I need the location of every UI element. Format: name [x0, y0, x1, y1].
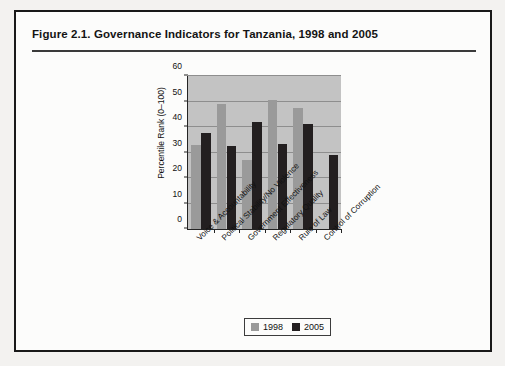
gridline — [188, 101, 341, 102]
plot-area: Percentile Rank (0–100) 0102030405060 Vo… — [187, 76, 341, 230]
gridline — [188, 177, 341, 178]
x-tick-mark — [290, 229, 291, 233]
gridline — [188, 152, 341, 153]
legend-item-1998: 1998 — [251, 322, 283, 332]
y-tick-mark — [184, 100, 188, 101]
chart-area: Percentile Rank (0–100) 0102030405060 Vo… — [16, 56, 490, 350]
y-tick-mark — [184, 228, 188, 229]
bar-1998-voice-accountability — [191, 145, 201, 229]
y-tick-label: 30 — [173, 138, 182, 148]
bar-2005-voice-accountability — [201, 133, 211, 229]
y-tick-label: 60 — [173, 61, 182, 71]
figure-title: Figure 2.1. Governance Indicators for Ta… — [32, 28, 378, 40]
bar-2005-control-of-corruption — [329, 155, 339, 229]
y-tick-mark — [184, 126, 188, 127]
y-axis-title: Percentile Rank (0–100) — [156, 38, 166, 228]
legend-item-2005: 2005 — [292, 322, 324, 332]
figure-frame: Figure 2.1. Governance Indicators for Ta… — [14, 10, 492, 352]
gridline — [188, 75, 341, 76]
x-tick-mark — [239, 229, 240, 233]
legend-swatch-2005 — [292, 323, 300, 331]
y-tick-mark — [184, 75, 188, 76]
legend-label: 2005 — [304, 322, 324, 332]
y-tick-mark — [184, 151, 188, 152]
y-tick-label: 0 — [177, 214, 182, 224]
page-background: Figure 2.1. Governance Indicators for Ta… — [0, 0, 505, 366]
bar-2005-political-stability-no-violence — [227, 146, 237, 229]
y-tick-label: 20 — [173, 163, 182, 173]
legend-label: 1998 — [263, 322, 283, 332]
y-tick-mark — [184, 177, 188, 178]
y-tick-label: 50 — [173, 87, 182, 97]
y-tick-mark — [184, 202, 188, 203]
title-divider — [32, 50, 476, 52]
gridline — [188, 126, 341, 127]
chart-legend: 19982005 — [244, 318, 331, 336]
y-tick-label: 40 — [173, 112, 182, 122]
x-tick-mark — [341, 229, 342, 233]
y-tick-label: 10 — [173, 189, 182, 199]
legend-swatch-1998 — [251, 323, 259, 331]
